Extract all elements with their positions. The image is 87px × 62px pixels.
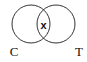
venn-diagram: x C T [0, 0, 87, 62]
set-t-label: T [75, 44, 83, 59]
set-c-label: C [10, 44, 19, 59]
intersection-mark: x [40, 19, 47, 31]
